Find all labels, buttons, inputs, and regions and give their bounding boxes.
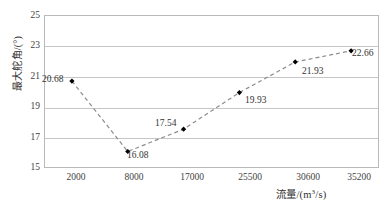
x-tick-label-2000: 2000 [46,172,106,183]
x-tick-label-17000: 17000 [162,172,222,183]
point-label-5: 22.66 [352,48,373,58]
point-label-3: 19.93 [245,95,266,105]
gridline-19 [45,108,378,109]
gridline-17 [45,138,378,139]
point-label-4: 21.93 [302,66,323,76]
point-label-1: 16.08 [127,150,148,160]
x-tick-label-25500: 25500 [220,172,280,183]
y-tick-label-15: 15 [14,162,40,172]
x-tick-label-8000: 8000 [104,172,164,183]
plot-area [44,15,379,168]
x-axis-title-suffix: /s) [315,189,326,200]
x-tick-label-35200: 35200 [329,172,388,183]
y-axis-title: 最大舵角/(°) [9,12,24,116]
chart-container: 25 23 21 19 17 15 2000 8000 17000 25500 … [0,0,388,210]
x-axis-title: 流量/(m3/s) [276,186,326,201]
gridline-21 [45,77,378,78]
y-tick-label-17: 17 [14,132,40,142]
x-axis-title-prefix: 流量/(m [276,189,312,200]
point-label-0: 20.68 [42,74,63,84]
gridline-23 [45,46,378,47]
point-label-2: 17.54 [155,118,176,128]
